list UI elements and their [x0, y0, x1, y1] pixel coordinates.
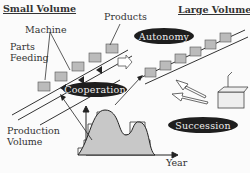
succession-arrows-icon — [172, 80, 208, 104]
production-curve — [78, 110, 155, 155]
parts-label: Parts — [10, 42, 35, 52]
large-volume-label: Large Volume — [178, 5, 250, 15]
small-volume-label: Small Volume — [3, 4, 76, 14]
production-concept-diagram: Small Volume Large Volume Machine Produc… — [0, 0, 250, 173]
succession-pill: Succession — [168, 117, 238, 133]
volume-label: Volume — [7, 137, 43, 147]
machine-label: Machine — [25, 25, 67, 35]
cooperation-pill: Cooperation — [63, 82, 127, 97]
robot-box-icon — [218, 72, 248, 108]
production-label: Production — [7, 126, 60, 136]
feeding-label: Feeding — [10, 53, 49, 63]
year-label: Year — [166, 158, 187, 168]
products-label: Products — [104, 12, 147, 22]
autonomy-pill: Autonomy — [134, 28, 194, 44]
